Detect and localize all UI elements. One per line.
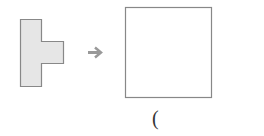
arrow-right-icon [88, 48, 101, 58]
caption: ( [152, 108, 159, 128]
diagram: ( [0, 0, 264, 136]
t-shape [21, 20, 64, 87]
empty-square [126, 8, 212, 98]
diagram-canvas [0, 0, 264, 136]
